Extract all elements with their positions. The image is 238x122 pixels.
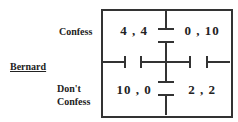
vertical-divider-top-cap xyxy=(158,28,174,30)
vertical-divider-top xyxy=(165,10,167,30)
horizontal-divider-center xyxy=(140,61,191,63)
row-strategy-dont-confess: Don't Confess xyxy=(57,83,90,107)
row-strategy-dont-confess-line2: Confess xyxy=(57,96,90,107)
row-strategy-confess: Confess xyxy=(59,26,92,37)
payoff-confess-confess: 4 , 4 xyxy=(110,23,158,39)
row-strategy-dont-confess-line1: Don't xyxy=(57,83,90,94)
row-player-label: Bernard xyxy=(10,61,46,72)
vertical-divider-mid-cap-bottom xyxy=(158,81,174,83)
horizontal-divider-left xyxy=(102,61,126,63)
vertical-divider-bottom xyxy=(165,94,167,115)
horizontal-divider-right xyxy=(206,61,230,63)
payoff-confess-dontconfess: 0 , 10 xyxy=(174,23,230,39)
horizontal-divider-left-cap xyxy=(124,56,126,68)
payoff-dontconfess-dontconfess: 2 , 2 xyxy=(176,82,228,98)
horizontal-divider-center-cap-right xyxy=(189,56,191,68)
payoff-dontconfess-confess: 10 , 0 xyxy=(108,82,160,98)
